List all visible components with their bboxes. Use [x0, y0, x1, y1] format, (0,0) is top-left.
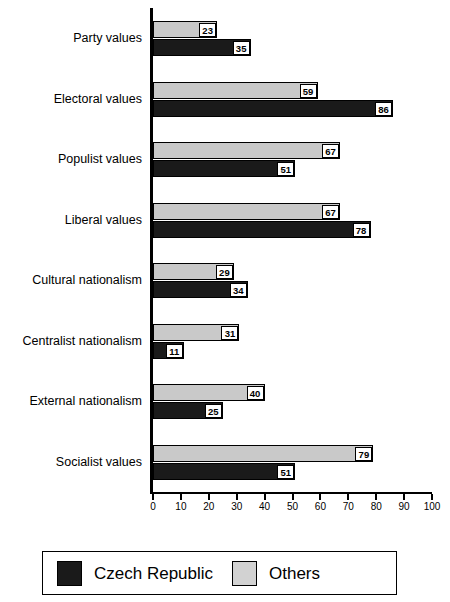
x-tick-mark — [403, 494, 405, 500]
legend-label-czech-republic: Czech Republic — [94, 564, 213, 584]
x-tick-label: 20 — [194, 501, 224, 513]
x-tick-label: 40 — [250, 501, 280, 513]
bar-value-label: 29 — [216, 265, 233, 279]
bar-value-label: 40 — [247, 386, 264, 400]
bar-others: 67 — [153, 142, 340, 159]
bar-others: 31 — [153, 324, 239, 341]
bar-group: Socialist values7951 — [153, 445, 432, 481]
bar-value-label: 59 — [300, 84, 317, 98]
bar-czech: 35 — [153, 39, 251, 56]
x-tick-label: 10 — [166, 501, 196, 513]
category-label: Populist values — [0, 152, 142, 166]
category-label: Party values — [0, 31, 142, 45]
category-label: Liberal values — [0, 213, 142, 227]
x-tick-label: 30 — [222, 501, 252, 513]
category-label: Electoral values — [0, 92, 142, 106]
x-tick-mark — [375, 494, 377, 500]
bar-group: Cultural nationalism2934 — [153, 263, 432, 299]
bar-group: Party values2335 — [153, 21, 432, 57]
bar-value-label: 25 — [205, 404, 222, 418]
category-label: Socialist values — [0, 455, 142, 469]
bar-group: Electoral values5986 — [153, 82, 432, 118]
bar-czech: 25 — [153, 402, 223, 419]
bar-group: External nationalism4025 — [153, 384, 432, 420]
bar-value-label: 23 — [199, 23, 216, 37]
bar-czech: 51 — [153, 160, 295, 177]
bar-others: 40 — [153, 384, 265, 401]
bar-others: 59 — [153, 82, 318, 99]
bar-value-label: 51 — [277, 465, 294, 479]
bar-group: Liberal values6778 — [153, 203, 432, 239]
category-label: External nationalism — [0, 394, 142, 408]
x-tick-label: 60 — [305, 501, 335, 513]
x-tick-mark — [180, 494, 182, 500]
x-tick-mark — [292, 494, 294, 500]
bar-others: 23 — [153, 21, 217, 38]
legend-label-others: Others — [269, 564, 320, 584]
x-tick-label: 70 — [333, 501, 363, 513]
bar-others: 29 — [153, 263, 234, 280]
legend-entry-others: Others — [232, 561, 320, 586]
bar-group: Populist values6751 — [153, 142, 432, 178]
x-tick-label: 90 — [389, 501, 419, 513]
x-tick-label: 80 — [361, 501, 391, 513]
bar-value-label: 86 — [375, 102, 392, 116]
bar-value-label: 35 — [233, 41, 250, 55]
x-tick-mark — [208, 494, 210, 500]
bar-group: Centralist nationalism3111 — [153, 324, 432, 360]
plot-area: 0102030405060708090100 Party values2335E… — [153, 8, 432, 492]
bar-value-label: 34 — [230, 283, 247, 297]
bar-czech: 86 — [153, 100, 393, 117]
bar-value-label: 78 — [353, 223, 370, 237]
bar-others: 67 — [153, 203, 340, 220]
x-tick-mark — [431, 494, 433, 500]
x-tick-label: 50 — [278, 501, 308, 513]
bar-value-label: 31 — [221, 326, 238, 340]
x-tick-mark — [264, 494, 266, 500]
chart-legend: Czech Republic Others — [42, 551, 397, 595]
bar-czech: 51 — [153, 463, 295, 480]
legend-swatch-czech-republic — [57, 561, 82, 586]
x-tick-mark — [152, 494, 154, 500]
x-tick-mark — [236, 494, 238, 500]
x-tick-label: 100 — [417, 501, 447, 513]
bar-czech: 78 — [153, 221, 371, 238]
x-tick-mark — [347, 494, 349, 500]
x-tick-mark — [319, 494, 321, 500]
bar-value-label: 67 — [322, 144, 339, 158]
legend-swatch-others — [232, 561, 257, 586]
grouped-bar-chart: 0102030405060708090100 Party values2335E… — [0, 0, 450, 602]
bar-value-label: 11 — [166, 344, 183, 358]
bar-others: 79 — [153, 445, 373, 462]
bar-value-label: 79 — [355, 447, 372, 461]
legend-entry-czech-republic: Czech Republic — [57, 561, 213, 586]
category-label: Cultural nationalism — [0, 273, 142, 287]
bar-value-label: 51 — [277, 162, 294, 176]
category-label: Centralist nationalism — [0, 334, 142, 348]
x-tick-label: 0 — [138, 501, 168, 513]
bar-czech: 11 — [153, 342, 184, 359]
bar-czech: 34 — [153, 281, 248, 298]
bar-value-label: 67 — [322, 205, 339, 219]
